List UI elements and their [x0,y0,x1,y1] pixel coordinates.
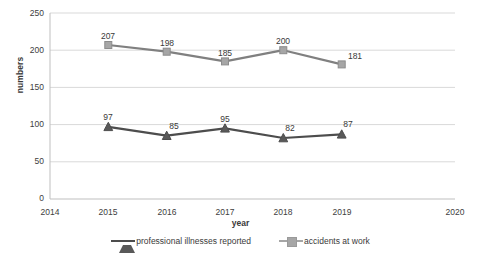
data-point-marker [222,58,229,65]
x-tick-label: 2018 [263,207,303,217]
data-label: 198 [154,38,180,48]
data-label: 82 [277,123,303,133]
legend-label: accidents at work [304,236,370,246]
x-axis-title: year [0,218,481,228]
legend-item-professional-illnesses-reported[interactable]: professional illnesses reported [111,236,251,246]
legend-key-square-icon [279,236,303,246]
data-label: 85 [161,121,187,131]
x-tick-label: 2015 [88,207,128,217]
data-label: 97 [95,112,121,122]
data-point-marker [163,48,170,55]
x-tick-label: 2019 [322,207,362,217]
x-tick-label: 2016 [147,207,187,217]
data-point-marker [280,47,287,54]
x-tick-label: 2020 [435,207,475,217]
data-point-marker [338,61,345,68]
legend-label: professional illnesses reported [136,236,251,246]
data-label: 87 [335,119,361,129]
legend-item-accidents-at-work[interactable]: accidents at work [279,236,370,246]
chart-legend: professional illnesses reported accident… [0,236,481,246]
data-label: 185 [212,48,238,58]
data-label: 207 [95,31,121,41]
legend-key-triangle-icon [111,236,135,246]
x-tick-label: 2014 [30,207,70,217]
data-label: 200 [270,36,296,46]
data-point-marker [105,42,112,49]
data-label: 181 [342,51,368,61]
x-tick-label: 2017 [205,207,245,217]
data-label: 95 [212,114,238,124]
line-chart: numbers 250 200 150 100 50 0 207 198 [0,0,481,260]
